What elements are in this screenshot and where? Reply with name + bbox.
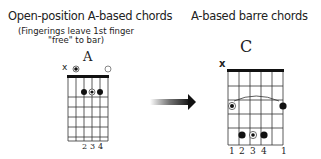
left-root-marker-icon — [73, 66, 79, 72]
left-open-string-icon — [105, 66, 111, 72]
left-finger-dot-4 — [97, 89, 103, 95]
left-finger-dot-2 — [81, 89, 87, 95]
right-finger-label: 4 — [261, 146, 267, 156]
right-finger-label: 3 — [250, 146, 256, 156]
chord-diagrams — [0, 0, 321, 159]
left-finger-label: 2 — [82, 142, 87, 151]
right-barre-root-marker-icon — [228, 102, 235, 109]
right-muted-marker: x — [219, 58, 225, 69]
right-finger-dot-4 — [260, 131, 267, 138]
right-arrow-icon — [150, 94, 196, 110]
left-finger-label: 3 — [90, 142, 95, 151]
right-finger-dot-3-root — [249, 131, 256, 138]
right-finger-dot-2 — [238, 131, 245, 138]
left-finger-label: 4 — [98, 142, 103, 151]
right-finger-label: 2 — [239, 146, 245, 156]
left-finger-dot-3-root — [89, 89, 95, 95]
right-barre-dot-end — [279, 102, 286, 109]
right-top-bar — [227, 69, 284, 72]
left-muted-marker: x — [62, 62, 67, 72]
left-nut — [67, 75, 109, 78]
right-finger-label: 1 — [229, 146, 235, 156]
right-finger-label: 1 — [281, 146, 287, 156]
